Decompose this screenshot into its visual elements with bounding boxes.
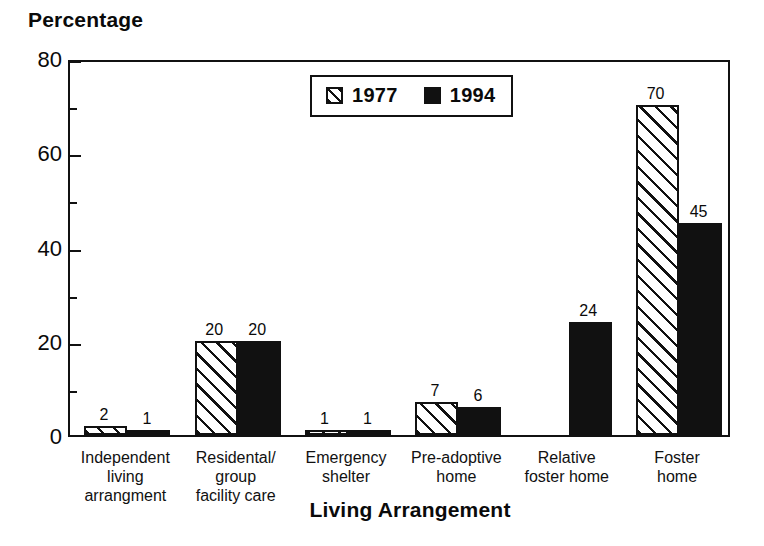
bar-1994-0 [127,430,170,435]
y-tick-minor [70,108,77,110]
bar-value-label: 45 [690,203,708,221]
y-tick-minor [70,391,77,393]
bar-1994-1 [238,341,281,435]
bar-value-label: 70 [647,85,665,103]
y-tick-label: 60 [6,141,62,167]
bar-value-label: 2 [99,406,108,424]
bar-value-label: 20 [205,321,223,339]
bar-value-label: 1 [363,410,372,428]
bar-value-label: 1 [320,410,329,428]
bar-value-label: 24 [579,302,597,320]
bar-1977-1 [195,341,238,435]
y-tick-label: 20 [6,330,62,356]
x-tick-label: Emergency shelter [306,449,387,487]
bar-1994-3 [458,407,501,435]
y-tick-label: 80 [6,47,62,73]
bar-1994-5 [679,223,722,435]
bar-1977-2 [305,430,348,435]
x-tick-label: Pre-adoptive home [411,449,502,487]
legend-entry-1977: 1977 [326,84,398,107]
y-tick-minor [70,297,77,299]
bar-chart: Percentage 020406080 2120201176247045 In… [0,0,764,546]
y-tick-major [70,344,81,346]
hatched-swatch-icon [326,87,343,104]
bar-1977-3 [415,402,458,435]
bar-value-label: 7 [430,382,439,400]
y-tick-label: 0 [6,424,62,450]
x-tick-label: Relative foster home [524,449,608,487]
legend-label-1977: 1977 [352,84,398,107]
legend-entry-1994: 1994 [424,84,496,107]
y-axis: 020406080 [0,0,62,546]
y-tick-label: 40 [6,236,62,262]
y-tick-major [70,250,81,252]
y-tick-major [70,61,81,63]
bar-value-label: 6 [473,387,482,405]
bar-1977-5 [636,105,679,435]
x-tick-label: Foster home [654,449,699,487]
bar-1977-0 [84,426,127,435]
bar-1994-4 [569,322,612,435]
bar-value-label: 20 [248,321,266,339]
y-tick-major [70,155,81,157]
x-axis-title: Living Arrangement [309,498,510,522]
bar-value-label: 1 [142,410,151,428]
solid-black-swatch-icon [424,87,441,104]
y-tick-minor [70,202,77,204]
x-axis-title-wrap: Living Arrangement [0,498,764,522]
bars-layer [70,62,728,435]
legend: 1977 1994 [310,75,513,117]
bar-1994-2 [348,430,391,435]
legend-label-1994: 1994 [450,84,496,107]
